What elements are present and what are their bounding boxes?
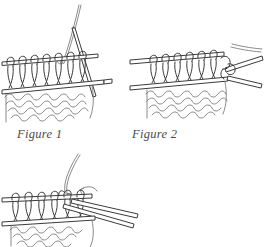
knitted-fabric-on-needles-illustration bbox=[0, 2, 118, 124]
working-yarn bbox=[59, 154, 80, 198]
working-needle-right bbox=[225, 44, 263, 88]
figure-1-illustration: Line drawing of knitted swatch held on t… bbox=[0, 2, 118, 124]
figure-2-illustration: Line drawing of knitted swatch with righ… bbox=[128, 42, 264, 124]
knitted-fabric-yarn-loop-illustration bbox=[0, 152, 140, 247]
knitted-fabric-needle-insertion-illustration bbox=[128, 42, 264, 124]
front-needle-lower bbox=[2, 79, 112, 94]
needle-left-lower bbox=[130, 77, 228, 90]
needle-right-pair bbox=[63, 199, 138, 228]
figure-sheet: Line drawing of knitted swatch held on t… bbox=[0, 0, 264, 247]
figure-3-illustration: Line drawing of knitted swatch on needle… bbox=[0, 152, 140, 247]
figure-1-caption: Figure 1 bbox=[17, 127, 62, 142]
figure-2-caption: Figure 2 bbox=[132, 127, 177, 142]
